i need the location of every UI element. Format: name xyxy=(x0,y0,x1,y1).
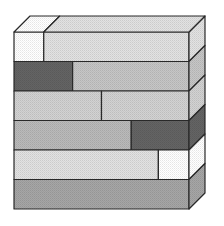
row-6-bottom-medium-dark-block-front-texture xyxy=(14,180,189,210)
block-faces xyxy=(14,16,205,209)
row-4-dark-block-front-texture xyxy=(131,121,189,151)
row-4-medium-block-front-texture xyxy=(14,121,131,151)
row-2-dark-block-front-texture xyxy=(14,62,73,92)
row-5-white-block-front-texture xyxy=(158,150,189,180)
row-1-top-white-block-front-texture xyxy=(14,32,44,62)
row-5-light-dotted-block-front-texture xyxy=(14,150,158,180)
block-wall-svg xyxy=(0,0,224,226)
top-light-dotted-block-texture xyxy=(44,16,205,32)
row-1-top-light-dotted-block-front-texture xyxy=(44,32,189,62)
block-wall-diagram xyxy=(0,0,224,226)
row-3-light-block-left-front-texture xyxy=(14,91,102,121)
row-2-medium-light-block-front-texture xyxy=(73,62,189,92)
row-3-light-block-right-front-texture xyxy=(102,91,190,121)
